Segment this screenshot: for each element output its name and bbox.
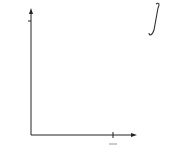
y-axis-arrow — [29, 8, 33, 14]
graph — [0, 0, 174, 148]
integral-sign — [149, 3, 159, 35]
x-axis-arrow — [131, 133, 137, 137]
